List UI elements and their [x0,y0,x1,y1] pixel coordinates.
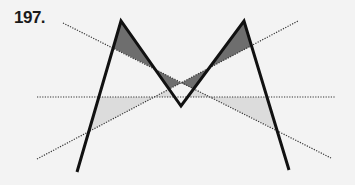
dotted-line-falling [63,23,331,158]
m-diagram [0,0,355,185]
